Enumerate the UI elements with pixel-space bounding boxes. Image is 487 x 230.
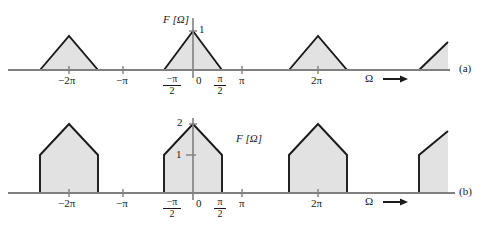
y-tick-label-b-1: 1 xyxy=(176,149,182,160)
x-tick-label-a-2pi: 2π xyxy=(311,75,322,86)
x-tick-label-b-minus-2pi: −2π xyxy=(58,198,75,209)
pulse-a-2pi xyxy=(289,36,347,70)
panel-label-b: (b) xyxy=(459,186,472,197)
x-tick-label-b-minus-pi: −π xyxy=(116,198,128,209)
panel-b xyxy=(8,118,455,206)
x-tick-label-b-pi-over-2-den: 2 xyxy=(213,209,227,220)
x-tick-label-a-minus-2pi: −2π xyxy=(58,75,75,86)
pulse-b-2pi xyxy=(289,124,347,193)
y-axis-label-b: F [Ω] xyxy=(236,133,262,144)
panel-a xyxy=(8,18,450,83)
pulse-a-minus-2pi xyxy=(40,36,98,70)
x-tick-label-b-pi-over-2-num: π xyxy=(213,197,227,208)
x-tick-label-b-zero: 0 xyxy=(196,198,202,209)
y-tick-label-b-2: 2 xyxy=(177,117,183,128)
x-axis-label-a: Ω xyxy=(365,73,373,84)
figure-canvas xyxy=(0,0,487,230)
x-tick-label-b-pi-over-2: π 2 xyxy=(213,197,227,219)
x-tick-label-b-2pi: 2π xyxy=(311,198,322,209)
x-tick-label-a-minus-pi-over-2: −π 2 xyxy=(162,74,182,96)
pulse-b-4pi-clipped xyxy=(419,131,448,193)
panel-label-a: (a) xyxy=(459,63,471,74)
y-axis-label-a: F [Ω] xyxy=(163,14,189,25)
x-tick-label-a-minus-pi-over-2-num: −π xyxy=(162,74,182,85)
omega-arrow-a-head xyxy=(400,76,408,83)
pulse-b-minus-2pi xyxy=(40,124,98,193)
x-tick-label-a-pi-over-2-num: π xyxy=(213,74,227,85)
x-tick-label-b-minus-pi-over-2-num: −π xyxy=(162,197,182,208)
y-tick-label-a-1: 1 xyxy=(199,24,205,35)
x-tick-label-b-minus-pi-over-2: −π 2 xyxy=(162,197,182,219)
x-tick-label-a-pi-over-2: π 2 xyxy=(213,74,227,96)
x-tick-label-b-minus-pi-over-2-den: 2 xyxy=(162,209,182,220)
x-tick-label-a-minus-pi-over-2-den: 2 xyxy=(162,86,182,97)
x-tick-label-b-pi: π xyxy=(239,198,245,209)
omega-arrow-b-head xyxy=(400,199,408,206)
x-tick-label-a-pi: π xyxy=(239,75,245,86)
x-tick-label-a-minus-pi: −π xyxy=(116,75,128,86)
x-tick-label-a-zero: 0 xyxy=(196,75,202,86)
x-tick-label-a-pi-over-2-den: 2 xyxy=(213,86,227,97)
x-axis-label-b: Ω xyxy=(365,196,373,207)
